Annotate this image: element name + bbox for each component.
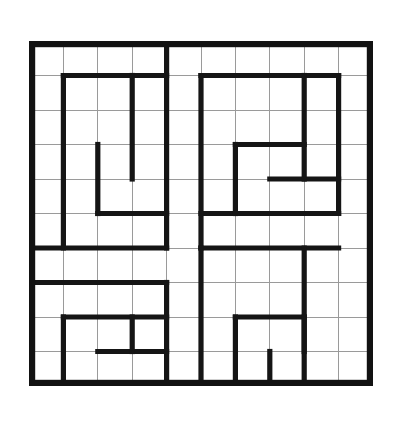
- maze-canvas: [0, 0, 401, 438]
- maze-grid-container: [29, 41, 373, 386]
- maze-diagram: [29, 41, 373, 386]
